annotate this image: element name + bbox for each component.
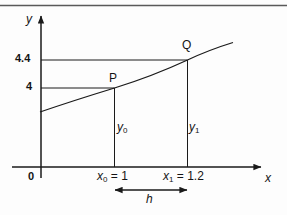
math-figure: y x 0 4.4 4 P Q y0 y1 x0 = 1 x1 = 1.2 h xyxy=(0,0,287,215)
y-tick-label-4-4: 4.4 xyxy=(15,53,30,64)
ordinate-sub-y1: 1 xyxy=(195,126,199,135)
y-tick-label-4: 4 xyxy=(26,81,32,92)
ordinate-sub-y0: 0 xyxy=(123,126,127,135)
ordinate-label-y0: y0 xyxy=(117,121,127,135)
x-tick-eq-x0: = 1 xyxy=(107,169,127,183)
origin-label: 0 xyxy=(28,171,34,182)
function-curve xyxy=(40,43,233,113)
x-tick-label-x1: x1 = 1.2 xyxy=(163,170,204,184)
ordinate-label-y1: y1 xyxy=(189,121,199,135)
y-axis-label: y xyxy=(26,13,32,25)
x-tick-eq-x1: = 1.2 xyxy=(173,169,203,183)
x-axis-label: x xyxy=(265,172,271,184)
point-label-p: P xyxy=(109,72,117,84)
point-label-q: Q xyxy=(182,39,191,51)
x-tick-label-x0: x0 = 1 xyxy=(97,170,128,184)
interval-label-h: h xyxy=(146,193,153,205)
figure-canvas xyxy=(0,0,287,215)
